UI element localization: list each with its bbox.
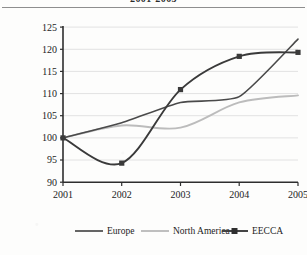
x-tick-labels: 2001 2002 2003 2004 2005 <box>53 189 307 200</box>
x-tick-label: 2001 <box>53 189 73 200</box>
series-markers-eecca <box>60 50 300 166</box>
x-axis <box>63 182 298 186</box>
legend-label-north-america: North America <box>173 226 231 236</box>
data-point-eecca-2005 <box>295 50 300 55</box>
y-tick-label: 90 <box>47 177 57 188</box>
grid-lines <box>63 27 298 160</box>
legend-marker-eecca <box>232 228 238 234</box>
chart-svg: 90 95 100 105 110 115 120 125 2001 2002 … <box>0 0 307 255</box>
y-tick-labels: 90 95 100 105 110 115 120 125 <box>42 22 57 188</box>
data-point-eecca-2002 <box>119 161 124 166</box>
series-line-eecca <box>63 52 298 164</box>
x-tick-label: 2004 <box>229 189 249 200</box>
y-tick-label: 125 <box>42 22 57 33</box>
y-tick-label: 95 <box>47 154 57 165</box>
y-axis <box>60 26 63 182</box>
y-tick-label: 110 <box>42 88 57 99</box>
y-tick-label: 100 <box>42 132 57 143</box>
data-point-eecca-2004 <box>237 54 242 59</box>
series-lines <box>60 39 300 166</box>
y-tick-label: 120 <box>42 44 57 55</box>
legend-label-europe: Europe <box>107 226 134 236</box>
x-tick-label: 2003 <box>171 189 191 200</box>
legend: Europe North America EECCA <box>75 226 283 236</box>
y-tick-label: 115 <box>42 66 57 77</box>
chart-figure: 2001-2005 Index (2001=100) <box>0 0 307 255</box>
legend-label-eecca: EECCA <box>252 226 283 236</box>
x-tick-label: 2002 <box>112 189 132 200</box>
y-tick-label: 105 <box>42 110 57 121</box>
data-point-eecca-2001 <box>60 135 65 140</box>
x-tick-label: 2005 <box>288 189 307 200</box>
data-point-eecca-2003 <box>178 87 183 92</box>
